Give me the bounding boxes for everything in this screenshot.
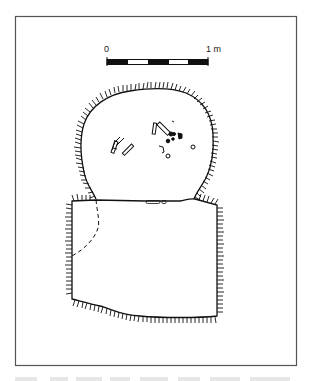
plan-drawing: 0 1 m [0,0,310,381]
caption-faint [15,377,290,381]
oval-pit [74,82,219,200]
rectangular-pit [65,194,224,323]
figure-frame [16,17,297,366]
dashed-boundary [72,200,99,256]
scale-start-label: 0 [104,44,109,54]
scale-end-label: 1 m [206,44,221,54]
finds-scatter [111,121,195,158]
scale-bar: 0 1 m [104,44,221,66]
